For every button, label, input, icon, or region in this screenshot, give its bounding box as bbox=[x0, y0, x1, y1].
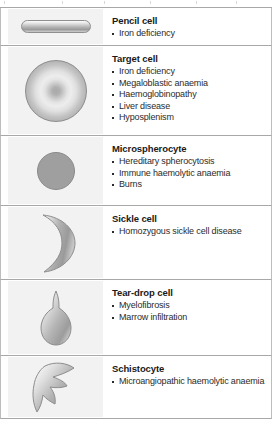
panel-text-tear-drop-cell: Tear-drop cell Myelofibrosis Marrow infi… bbox=[103, 280, 271, 330]
list-item: Iron deficiency bbox=[112, 28, 265, 40]
illustration-schistocyte bbox=[8, 357, 103, 417]
panel-title: Target cell bbox=[112, 53, 265, 65]
illustration-tear-drop-cell bbox=[8, 281, 103, 354]
list-item: Megaloblastic anaemia bbox=[112, 78, 265, 90]
panel-title: Pencil cell bbox=[112, 15, 265, 27]
morphology-panel-list: Pencil cell Iron deficiency Target cell … bbox=[0, 7, 272, 419]
panel-tear-drop-cell[interactable]: Tear-drop cell Myelofibrosis Marrow infi… bbox=[0, 280, 272, 356]
panel-text-microspherocyte: Microspherocyte Hereditary spherocytosis… bbox=[103, 136, 271, 198]
panel-schistocyte[interactable]: Schistocyte Microangiopathic haemolytic … bbox=[0, 356, 272, 419]
illustration-target-cell bbox=[8, 47, 103, 134]
panel-text-schistocyte: Schistocyte Microangiopathic haemolytic … bbox=[103, 356, 271, 395]
panel-text-sickle-cell: Sickle cell Homozygous sickle cell disea… bbox=[103, 206, 271, 245]
list-item: Hereditary spherocytosis bbox=[112, 156, 265, 168]
panel-title: Tear-drop cell bbox=[112, 287, 265, 299]
panel-sickle-cell[interactable]: Sickle cell Homozygous sickle cell disea… bbox=[0, 206, 272, 280]
tear-drop-cell-icon bbox=[39, 289, 73, 347]
cause-list-pencil-cell: Iron deficiency bbox=[112, 28, 265, 40]
schistocyte-icon bbox=[29, 359, 83, 415]
cause-list-target-cell: Iron deficiency Megaloblastic anaemia Ha… bbox=[112, 66, 265, 124]
list-item: Homozygous sickle cell disease bbox=[112, 226, 265, 238]
microspherocyte-icon bbox=[37, 152, 75, 190]
panel-title: Sickle cell bbox=[112, 213, 265, 225]
panel-title: Schistocyte bbox=[112, 363, 265, 375]
cause-list-schistocyte: Microangiopathic haemolytic anaemia bbox=[112, 376, 265, 388]
list-item: Burns bbox=[112, 179, 265, 191]
illustration-sickle-cell bbox=[8, 207, 103, 278]
pencil-cell-icon bbox=[21, 20, 91, 33]
illustration-microspherocyte bbox=[8, 137, 103, 204]
list-item: Iron deficiency bbox=[112, 66, 265, 78]
cause-list-microspherocyte: Hereditary spherocytosis Immune haemolyt… bbox=[112, 156, 265, 191]
list-item: Immune haemolytic anaemia bbox=[112, 168, 265, 180]
list-item: Liver disease bbox=[112, 101, 265, 113]
list-item: Hyposplenism bbox=[112, 112, 265, 124]
list-item: Haemoglobinopathy bbox=[112, 89, 265, 101]
panel-microspherocyte[interactable]: Microspherocyte Hereditary spherocytosis… bbox=[0, 136, 272, 206]
cause-list-sickle-cell: Homozygous sickle cell disease bbox=[112, 226, 265, 238]
sickle-cell-icon bbox=[33, 212, 79, 274]
panel-target-cell[interactable]: Target cell Iron deficiency Megaloblasti… bbox=[0, 46, 272, 136]
panel-text-target-cell: Target cell Iron deficiency Megaloblasti… bbox=[103, 46, 271, 131]
list-item: Microangiopathic haemolytic anaemia bbox=[112, 376, 265, 388]
list-item: Myelofibrosis bbox=[112, 300, 265, 312]
scan-edge-artifact bbox=[0, 0, 272, 7]
panel-title: Microspherocyte bbox=[112, 143, 265, 155]
panel-text-pencil-cell: Pencil cell Iron deficiency bbox=[103, 8, 271, 47]
cause-list-tear-drop-cell: Myelofibrosis Marrow infiltration bbox=[112, 300, 265, 323]
panel-pencil-cell[interactable]: Pencil cell Iron deficiency bbox=[0, 8, 272, 46]
red-cell-morphology-figure: Pencil cell Iron deficiency Target cell … bbox=[0, 0, 272, 426]
target-cell-icon bbox=[25, 60, 87, 122]
list-item: Marrow infiltration bbox=[112, 312, 265, 324]
illustration-pencil-cell bbox=[8, 9, 103, 44]
